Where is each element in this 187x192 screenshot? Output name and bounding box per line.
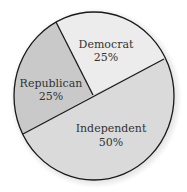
label-democrat-percent: 25% xyxy=(94,51,118,64)
label-republican-name: Republican xyxy=(20,77,83,90)
label-independent-percent: 50% xyxy=(99,136,123,149)
label-independent-name: Independent xyxy=(76,122,147,135)
pie-chart: Democrat 25% Republican 25% Independent … xyxy=(0,0,187,192)
label-democrat-name: Democrat xyxy=(79,38,134,51)
pie-chart-svg: Democrat 25% Republican 25% Independent … xyxy=(0,0,187,192)
label-republican-percent: 25% xyxy=(39,90,63,103)
